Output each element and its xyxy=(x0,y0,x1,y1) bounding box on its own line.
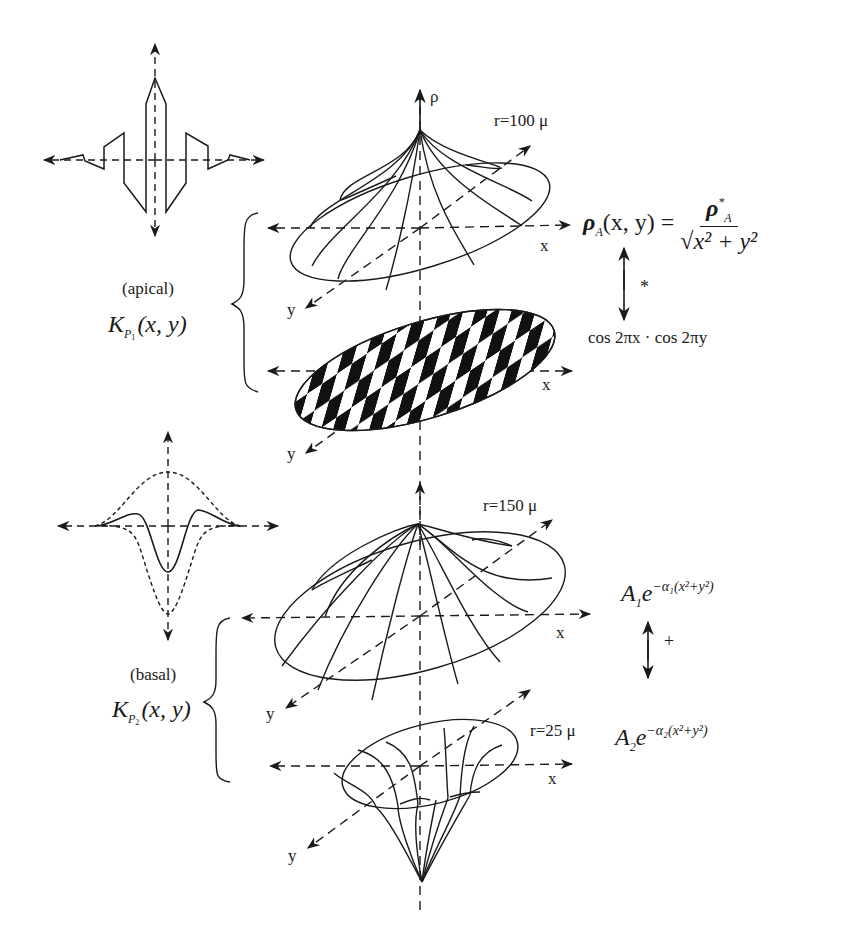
basal-outer-y-label: y xyxy=(266,705,275,722)
basal-inner-radius-label: r=25 μ xyxy=(530,722,576,739)
cosine-formula: cos 2πx · cos 2πy xyxy=(588,329,707,346)
apical-profile-plot xyxy=(44,44,264,236)
apical-x-label: x xyxy=(540,237,549,254)
diagram-canvas xyxy=(0,0,863,941)
apical-surface-rim xyxy=(277,139,562,306)
basal-profile-plot xyxy=(58,432,278,640)
basal-gaussian-1: A1e−α₁(x²+y²) xyxy=(621,580,714,609)
checker-y-label: y xyxy=(287,445,296,462)
basal-brace xyxy=(204,618,230,782)
basal-inner-surface-plot xyxy=(270,690,572,882)
basal-kernel-label: KP2 (x, y) xyxy=(112,697,191,727)
cosine-checkerboard xyxy=(282,285,568,456)
apical-region-label: (apical) xyxy=(122,280,174,297)
apical-rho-formula: ρA(x, y) = ρ*A √x² + y² xyxy=(583,196,757,253)
basal-region-label: (basal) xyxy=(130,666,176,683)
apical-y-label: y xyxy=(287,301,296,318)
sum-operator: + xyxy=(664,632,674,650)
apical-radius-label: r=100 μ xyxy=(494,112,548,129)
dog-profile-curve xyxy=(98,510,240,572)
basal-outer-x-label: x xyxy=(556,624,565,641)
apical-brace xyxy=(232,213,258,392)
convolution-operator: * xyxy=(640,278,649,296)
basal-inner-x-label: x xyxy=(548,770,557,787)
apical-kernel-label: KP1 (x, y) xyxy=(108,312,187,342)
basal-outer-radius-label: r=150 μ xyxy=(483,497,537,514)
checker-x-label: x xyxy=(542,376,551,393)
basal-inner-y-label: y xyxy=(288,847,297,864)
basal-outer-surface-plot xyxy=(242,483,590,709)
rho-axis-label: ρ xyxy=(430,88,438,105)
basal-inner-rim xyxy=(333,703,527,824)
basal-gaussian-2: A2e−α₂(x²+y²) xyxy=(615,724,708,753)
